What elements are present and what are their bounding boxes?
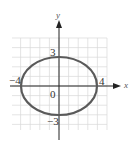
tick-label-left: −4 (9, 75, 21, 86)
x-axis-label: x (124, 81, 128, 90)
tick-label-bottom: −3 (47, 116, 59, 127)
ellipse-plot (0, 0, 136, 145)
tick-label-right: 4 (99, 76, 105, 87)
tick-label-top: 3 (50, 47, 56, 58)
origin-label: 0 (50, 89, 56, 100)
x-axis-arrow-icon (113, 83, 121, 89)
y-axis-label: y (56, 11, 60, 20)
y-axis-arrow-icon (56, 20, 62, 28)
